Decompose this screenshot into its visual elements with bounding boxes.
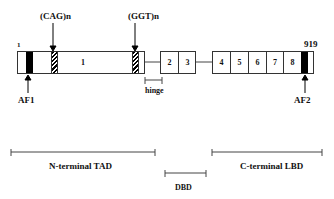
af2-arrow-icon xyxy=(302,75,308,93)
exon-5-cell: 5 xyxy=(231,52,249,73)
ggt-repeat-region xyxy=(132,52,139,73)
exon-4-8-box: 4 5 6 7 8 xyxy=(212,51,314,74)
dbd-label: DBD xyxy=(175,184,192,192)
exon-4-label: 4 xyxy=(220,58,224,67)
exon-8-cell: 8 xyxy=(284,52,301,73)
exon-4-cell: 4 xyxy=(213,52,231,73)
ntad-label: N-terminal TAD xyxy=(49,162,112,171)
af1-label: AF1 xyxy=(18,96,35,105)
exon-8-label: 8 xyxy=(291,58,295,67)
af2-label: AF2 xyxy=(294,96,311,105)
hinge-bracket xyxy=(145,77,162,84)
exon-6-cell: 6 xyxy=(249,52,267,73)
exon-2-cell: 2 xyxy=(161,52,179,73)
exon-1-box: 1 xyxy=(17,51,145,74)
exon-2-3-box: 2 3 xyxy=(160,51,196,74)
exon-7-label: 7 xyxy=(273,58,277,67)
af1-arrow-icon xyxy=(25,75,31,93)
clbd-bracket xyxy=(212,149,322,156)
exon-1-label: 1 xyxy=(81,59,85,67)
hinge-label: hinge xyxy=(145,87,164,95)
exon-2-label: 2 xyxy=(168,58,172,67)
cag-arrow-icon xyxy=(50,23,56,51)
ntad-bracket xyxy=(11,149,155,156)
af2-region xyxy=(301,52,308,73)
exon-3-cell: 3 xyxy=(179,52,196,73)
exon-6-label: 6 xyxy=(256,58,260,67)
exon-7-cell: 7 xyxy=(267,52,284,73)
clbd-label: C-terminal LBD xyxy=(240,162,303,171)
af1-region xyxy=(26,52,33,73)
exon-3-label: 3 xyxy=(186,58,190,67)
dbd-bracket xyxy=(165,170,206,177)
exon-5-label: 5 xyxy=(238,58,242,67)
ggt-arrow-icon xyxy=(132,23,138,51)
cag-repeat-region xyxy=(51,52,58,73)
